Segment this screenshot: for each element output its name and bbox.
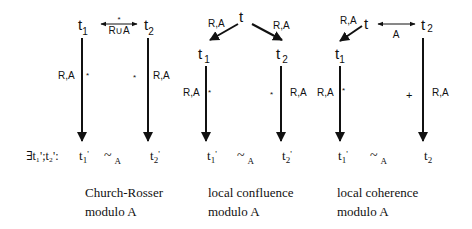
caption-subtitle: modulo A [208, 204, 260, 219]
caption-title: local confluence [208, 185, 294, 200]
node-t2-prime: t2' [282, 148, 292, 165]
caption-subtitle: modulo A [337, 204, 389, 219]
equiv-mod-a: ~A [104, 148, 122, 166]
node-t1: t1 [335, 45, 345, 65]
equiv-mod-a: ~A [370, 148, 388, 166]
exists-prefix: ∃t₁';t₂': [26, 149, 59, 163]
left-star-marker: * [342, 86, 345, 95]
right-branch-label: R,A [273, 20, 290, 31]
right-edge-label: R,A [290, 87, 307, 98]
left-edge-label: R,A [317, 87, 334, 98]
node-t1-prime: t1' [207, 148, 217, 165]
left-star-marker: * [86, 71, 89, 80]
node-t: t [239, 8, 244, 25]
left-branch-arrow [340, 26, 362, 41]
node-t1: t1 [78, 16, 88, 37]
node-t1-prime: t1' [79, 148, 89, 165]
node-t1-prime: t1' [338, 148, 348, 165]
node-t2: t2 [424, 148, 432, 165]
node-t1: t1 [198, 45, 210, 65]
right-star-marker: * [270, 90, 273, 99]
left-star-marker: * [208, 88, 211, 97]
equiv-mod-a: ~A [237, 148, 255, 166]
caption-subtitle: modulo A [85, 204, 137, 219]
left-branch-label: R,A [208, 18, 225, 29]
caption-title: local coherence [337, 185, 418, 200]
left-branch-label: R,A [340, 15, 357, 26]
right-edge-label: R,A [153, 70, 170, 81]
left-edge-label: R,A [183, 87, 200, 98]
right-plus-marker: + [406, 89, 412, 101]
local-coherence-diagram: t R,A A t2 t1 R,A * R,A + t1' ~A t2 loca… [317, 15, 449, 219]
star-marker: * [117, 15, 120, 24]
relation-label: A [393, 29, 400, 40]
node-t2: t2 [276, 45, 288, 65]
caption-title: Church-Rosser [85, 185, 164, 200]
left-edge-label: R,A [58, 70, 75, 81]
node-t: t [364, 15, 369, 32]
node-t2: t2 [144, 16, 154, 37]
node-t2-prime: t2' [150, 148, 160, 165]
right-star-marker: * [133, 73, 136, 82]
local-confluence-diagram: t R,A R,A t1 t2 R,A * R,A * t1' ~A t2' l… [183, 8, 307, 219]
church-rosser-diagram: t1 t2 * R∪A R,A * R,A * ∃t₁';t₂': t1' ~A… [26, 15, 170, 219]
diagram-canvas: t1 t2 * R∪A R,A * R,A * ∃t₁';t₂': t1' ~A… [0, 0, 472, 229]
right-edge-label: R,A [432, 87, 449, 98]
node-t2: t2 [421, 16, 433, 34]
relation-label: R∪A [108, 25, 130, 36]
